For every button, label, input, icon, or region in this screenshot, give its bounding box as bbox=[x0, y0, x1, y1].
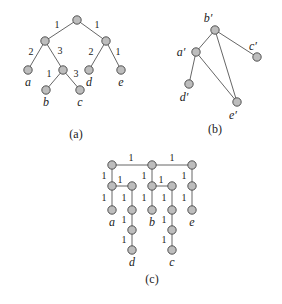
graph-node bbox=[192, 48, 200, 56]
graph-node bbox=[168, 226, 176, 234]
edge bbox=[215, 30, 237, 102]
graph-node bbox=[108, 161, 116, 169]
node-label: d bbox=[86, 75, 93, 89]
graph-node bbox=[41, 37, 49, 45]
edge-weight-label: 1 bbox=[142, 170, 147, 181]
node-label: b′ bbox=[204, 11, 213, 25]
figure-c-unit-tree: 1111111111111111abedc bbox=[102, 152, 197, 269]
graph-node bbox=[128, 226, 136, 234]
edge-weight-label: 1 bbox=[122, 192, 127, 203]
graph-node bbox=[188, 161, 196, 169]
edge-weight-label: 1 bbox=[95, 19, 100, 30]
graph-node bbox=[148, 161, 156, 169]
edge-weight-label: 2 bbox=[89, 46, 94, 57]
edge-weight-label: 3 bbox=[74, 68, 79, 79]
edge bbox=[45, 20, 77, 41]
graph-node bbox=[128, 246, 136, 254]
node-label: b bbox=[149, 215, 155, 229]
graph-node bbox=[188, 206, 196, 214]
edge bbox=[196, 52, 237, 102]
graph-node bbox=[148, 206, 156, 214]
graph-node bbox=[128, 182, 136, 190]
graph-node bbox=[73, 16, 81, 24]
edge-weight-label: 1 bbox=[142, 192, 147, 203]
edge-weight-label: 1 bbox=[47, 68, 52, 79]
node-label: a bbox=[109, 215, 115, 229]
edge-weight-label: 1 bbox=[102, 170, 107, 181]
graph-node bbox=[24, 66, 32, 74]
node-label: d′ bbox=[180, 90, 189, 104]
graph-node bbox=[185, 80, 193, 88]
graph-node bbox=[108, 206, 116, 214]
graph-node bbox=[233, 98, 241, 106]
graph-node bbox=[168, 206, 176, 214]
edge-weight-label: 1 bbox=[102, 192, 107, 203]
edge-weight-label: 1 bbox=[170, 152, 175, 163]
edge-weight-label: 3 bbox=[58, 45, 63, 56]
edge-weight-label: 2 bbox=[29, 46, 34, 57]
figure-a-weighted-tree: 11232113adebc bbox=[24, 16, 125, 109]
node-label: c bbox=[77, 95, 83, 109]
edge-weight-label: 1 bbox=[129, 152, 134, 163]
graph-node bbox=[117, 66, 125, 74]
caption-b: (b) bbox=[208, 122, 222, 136]
graph-node bbox=[128, 206, 136, 214]
node-label: a bbox=[25, 75, 31, 89]
node-label: d bbox=[129, 255, 136, 269]
figure-b-graph: b′a′c′d′e′ bbox=[177, 11, 262, 122]
graph-node bbox=[108, 182, 116, 190]
edge-weight-label: 1 bbox=[116, 46, 121, 57]
diagram-canvas: 11232113adebc (a) b′a′c′d′e′ (b) 1111111… bbox=[0, 0, 282, 304]
edge-weight-label: 1 bbox=[122, 234, 127, 245]
edge-weight-label: 1 bbox=[118, 174, 123, 185]
node-label: b bbox=[43, 95, 49, 109]
edge-weight-label: 1 bbox=[122, 214, 127, 225]
graph-node bbox=[59, 66, 67, 74]
graph-node bbox=[42, 86, 50, 94]
graph-node bbox=[253, 53, 261, 61]
caption-a: (a) bbox=[69, 127, 82, 141]
edge bbox=[189, 52, 196, 84]
node-label: e bbox=[189, 215, 195, 229]
graph-node bbox=[76, 86, 84, 94]
graph-node bbox=[168, 182, 176, 190]
edge-weight-label: 1 bbox=[162, 214, 167, 225]
node-label: c′ bbox=[249, 39, 257, 53]
edge-weight-label: 1 bbox=[159, 174, 164, 185]
edge-weight-label: 1 bbox=[55, 19, 60, 30]
graph-node bbox=[148, 182, 156, 190]
node-label: c bbox=[169, 255, 175, 269]
edge-weight-label: 1 bbox=[162, 234, 167, 245]
graph-node bbox=[188, 182, 196, 190]
node-label: e bbox=[118, 75, 124, 89]
edge-weight-label: 1 bbox=[182, 192, 187, 203]
node-label: a′ bbox=[177, 45, 186, 59]
edge-weight-label: 1 bbox=[182, 170, 187, 181]
graph-node bbox=[211, 26, 219, 34]
graph-node bbox=[102, 37, 110, 45]
edge-weight-label: 1 bbox=[162, 192, 167, 203]
edge bbox=[77, 20, 106, 41]
caption-c: (c) bbox=[145, 272, 158, 286]
node-label: e′ bbox=[229, 108, 237, 122]
graph-node bbox=[85, 66, 93, 74]
graph-node bbox=[168, 246, 176, 254]
